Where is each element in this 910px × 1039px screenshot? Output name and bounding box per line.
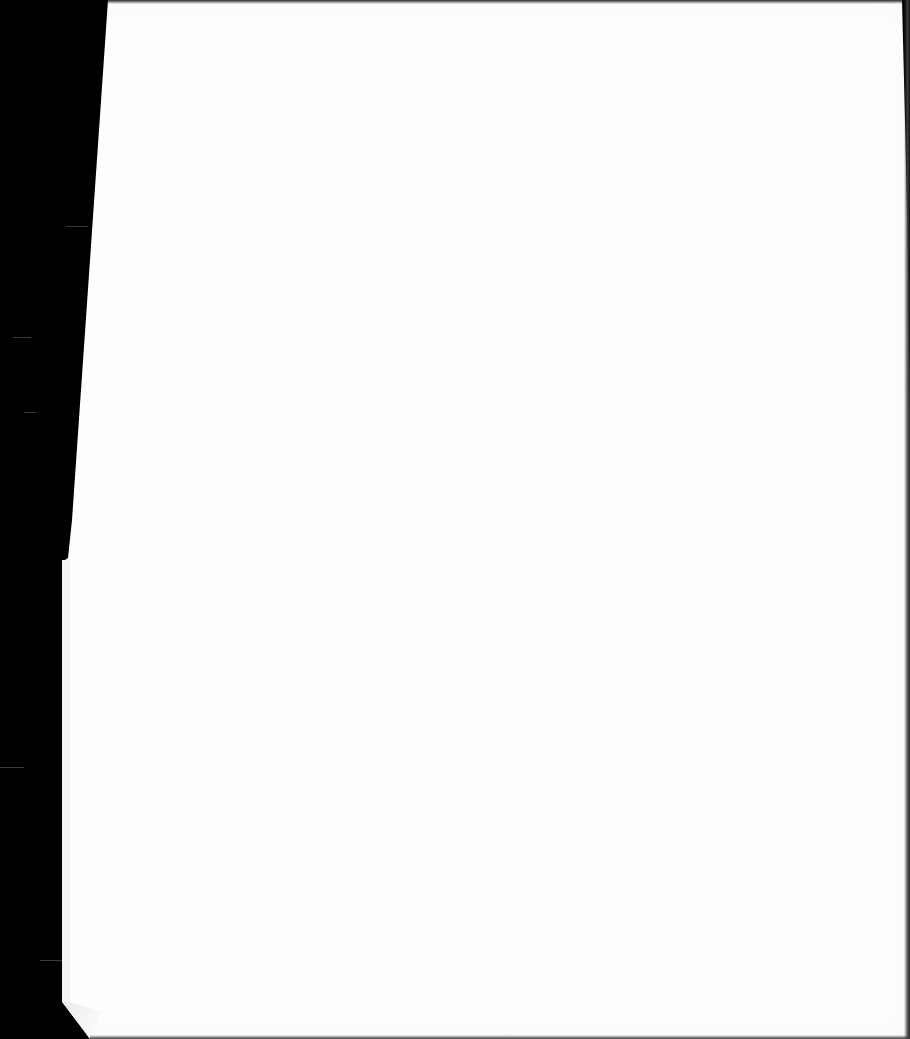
blank-page	[0, 0, 910, 1039]
scan-artifact	[13, 337, 31, 338]
page-right-edge	[904, 0, 910, 1039]
scan-artifact	[40, 960, 62, 961]
scan-artifact	[0, 767, 24, 768]
scanned-document	[0, 0, 910, 1039]
page-edge-step	[62, 560, 70, 1000]
scan-artifact	[66, 226, 88, 227]
scan-artifact	[24, 412, 36, 413]
page-bottom-edge	[90, 1035, 910, 1039]
page-top-edge	[108, 0, 902, 4]
